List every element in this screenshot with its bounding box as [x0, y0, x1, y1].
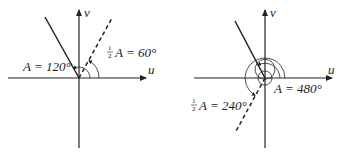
arc-half-A [89, 61, 99, 78]
svg-text:2: 2 [108, 52, 112, 60]
right-diagram: u v A = 480° 1 2 A = 240° [191, 5, 335, 148]
svg-text:A = 60°: A = 60° [114, 45, 156, 60]
svg-text:1: 1 [108, 44, 112, 52]
half-angle-label: 1 2 A = 240° [191, 97, 247, 113]
u-axis-label: u [328, 62, 335, 77]
v-axis-label: v [270, 5, 276, 20]
svg-text:2: 2 [192, 105, 196, 113]
svg-text:A = 240°: A = 240° [198, 98, 247, 113]
terminal-side-A [235, 21, 265, 78]
v-axis-label: v [84, 5, 90, 20]
angle-A-label: A = 480° [273, 81, 322, 96]
u-axis-label: u [148, 62, 155, 77]
half-angle-label: 1 2 A = 60° [107, 44, 156, 60]
angle-A-label: A = 120° [22, 59, 71, 74]
left-diagram: u v A = 120° 1 2 A = 60° [8, 5, 156, 148]
svg-text:1: 1 [192, 97, 196, 105]
angle-diagrams: u v A = 120° 1 2 A = 60° u v A = 480° 1 [0, 0, 343, 158]
